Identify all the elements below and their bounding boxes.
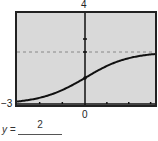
formula-lhs: y = <box>2 124 16 135</box>
graph-window <box>0 0 158 118</box>
formula-numerator: 2 <box>18 119 62 130</box>
plot-background <box>16 12 156 106</box>
y-min-label: −3 <box>1 99 12 109</box>
y-intercept-point <box>83 76 87 80</box>
y-max-label: 4 <box>81 0 87 10</box>
fraction-bar <box>18 134 62 135</box>
x-zero-label: 0 <box>82 110 88 120</box>
